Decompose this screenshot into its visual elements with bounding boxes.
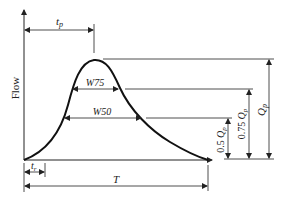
w50-label: W50 bbox=[93, 106, 111, 117]
T-dimension: T bbox=[25, 165, 208, 191]
T-label: T bbox=[113, 173, 120, 185]
w50-dimension: W50 bbox=[65, 106, 141, 118]
w75-label: W75 bbox=[86, 77, 104, 88]
tr-label: tr bbox=[31, 160, 37, 173]
tp-dimension: tp bbox=[25, 15, 94, 53]
y-axis-label: Flow bbox=[9, 77, 21, 100]
tp-label: tp bbox=[56, 15, 63, 29]
q075-label: 0.75 Qp bbox=[236, 108, 249, 139]
qp-label: Qp bbox=[255, 104, 269, 116]
hydrograph-diagram: Flow tp W75 W50 0.5 Qp 0.75 Qp Qp tr bbox=[0, 0, 288, 200]
hydrograph-curve bbox=[24, 60, 208, 160]
q05-dimension: 0.5 Qp bbox=[215, 119, 228, 158]
tr-dimension: tr bbox=[24, 160, 45, 192]
q075-dimension: 0.75 Qp bbox=[236, 90, 249, 158]
w75-dimension: W75 bbox=[73, 77, 118, 89]
q05-label: 0.5 Qp bbox=[215, 127, 228, 153]
qp-dimension: Qp bbox=[255, 60, 269, 158]
